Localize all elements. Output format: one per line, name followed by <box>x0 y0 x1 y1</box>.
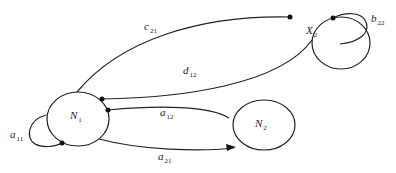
junction-dot <box>106 108 111 113</box>
junction-dot <box>100 97 105 102</box>
edge-d12 <box>102 40 312 99</box>
node-n2-label: N2 <box>255 117 267 132</box>
junction-dot <box>331 16 336 21</box>
junction-dot <box>288 15 293 20</box>
edge-c21 <box>77 17 290 92</box>
edge-label-d12: d12 <box>183 64 197 79</box>
graph-canvas <box>0 0 396 173</box>
edge-a21 <box>99 139 234 150</box>
node-x2-label: X2 <box>306 24 317 39</box>
edge-label-c21: c21 <box>144 20 157 35</box>
edge-label-a21: a21 <box>158 150 172 165</box>
junction-dot <box>60 141 65 146</box>
arrow-head-icon <box>226 144 236 151</box>
node-n1-label: N1 <box>70 109 82 124</box>
edge-a11-loop <box>29 115 62 147</box>
edge-label-b22: b22 <box>371 12 385 27</box>
edge-label-a12: a12 <box>160 106 174 121</box>
node-x2-circle <box>312 17 370 69</box>
edge-label-a11: a11 <box>10 128 23 143</box>
